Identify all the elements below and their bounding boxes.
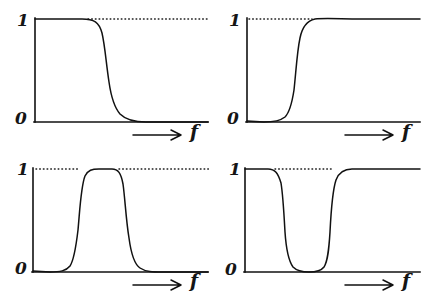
bandpass-response-curve bbox=[33, 169, 208, 272]
lowpass-plot-svg bbox=[0, 0, 212, 149]
y-axis-top-label: 1 bbox=[17, 12, 28, 29]
y-axis-top-label: 1 bbox=[229, 161, 240, 178]
y-axis-top-label: 1 bbox=[229, 12, 240, 29]
x-axis-frequency-label: f bbox=[402, 271, 410, 290]
frequency-right-arrow-icon bbox=[345, 280, 393, 290]
frequency-right-arrow-icon bbox=[345, 130, 393, 140]
y-axis-bottom-label: 0 bbox=[15, 260, 27, 277]
plot-panel-lowpass: 1 0 f bbox=[0, 0, 212, 148]
y-axis-bottom-label: 0 bbox=[225, 261, 237, 278]
highpass-response-curve bbox=[247, 19, 420, 122]
x-axis-frequency-label: f bbox=[190, 122, 198, 141]
x-axis-frequency-label: f bbox=[190, 271, 198, 290]
bandstop-plot-svg bbox=[212, 148, 424, 297]
y-axis-bottom-label: 0 bbox=[227, 110, 239, 127]
y-axis-top-label: 1 bbox=[17, 161, 28, 178]
y-axis-bottom-label: 0 bbox=[15, 110, 27, 127]
filter-response-figure: 1 0 f 1 0 f 1 0 f bbox=[0, 0, 424, 297]
bandstop-response-curve bbox=[245, 169, 420, 272]
frequency-right-arrow-icon bbox=[133, 130, 181, 140]
frequency-right-arrow-icon bbox=[133, 280, 181, 290]
lowpass-response-curve bbox=[35, 19, 208, 122]
highpass-plot-svg bbox=[212, 0, 424, 149]
plot-panel-bandstop: 1 0 f bbox=[212, 148, 424, 296]
plot-panel-highpass: 1 0 f bbox=[212, 0, 424, 148]
plot-panel-bandpass: 1 0 f bbox=[0, 148, 212, 296]
bandpass-plot-svg bbox=[0, 148, 212, 297]
x-axis-frequency-label: f bbox=[402, 122, 410, 141]
